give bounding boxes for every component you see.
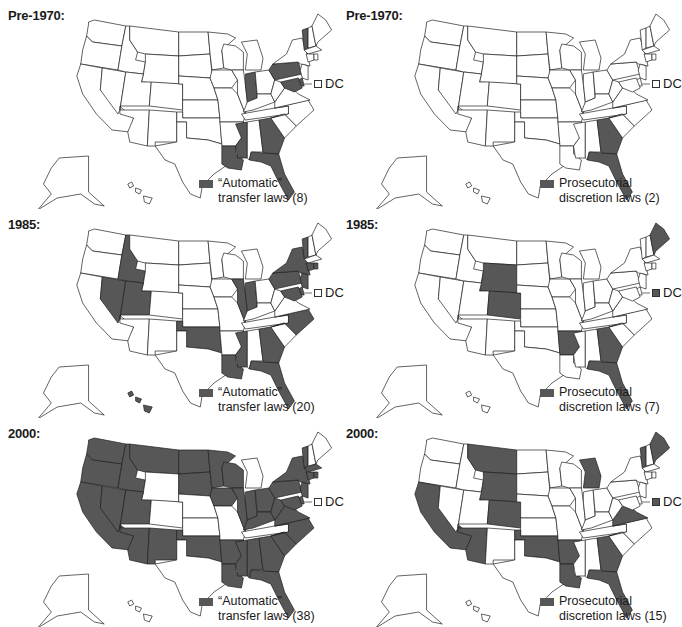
- state-co: [487, 500, 520, 528]
- state-sd: [517, 263, 550, 287]
- state-wi: [222, 462, 244, 488]
- map-panel-automatic-pre1970: Pre-1970:DC“Automatic”transfer laws (8): [0, 0, 336, 209]
- state-co: [487, 291, 520, 319]
- state-hi: [128, 182, 134, 188]
- dc-label: DC: [663, 285, 682, 300]
- state-nm: [147, 528, 176, 564]
- state-hi: [466, 391, 472, 397]
- state-ak: [38, 156, 105, 209]
- state-hi: [143, 196, 152, 204]
- state-hi: [474, 188, 480, 194]
- legend-label-line2: discretion laws (7): [541, 400, 660, 415]
- state-wi: [222, 253, 244, 279]
- dc-swatch: [314, 80, 322, 88]
- state-ak: [376, 365, 443, 418]
- legend-label-line2: transfer laws (38): [200, 609, 315, 624]
- state-sd: [179, 54, 212, 78]
- state-ri: [314, 263, 318, 269]
- legend-label-line1: Prosecutorial: [541, 594, 667, 609]
- state-wy: [141, 472, 178, 502]
- state-ks: [521, 100, 558, 118]
- state-nj: [638, 64, 646, 80]
- state-mt: [130, 444, 179, 474]
- state-me: [312, 223, 332, 255]
- map-panel-automatic-2000: 2000:DC“Automatic”transfer laws (38): [0, 418, 336, 627]
- state-mt: [468, 444, 517, 474]
- state-hi: [466, 600, 472, 606]
- state-mt: [468, 26, 517, 56]
- state-mt: [468, 235, 517, 265]
- state-wi: [560, 253, 582, 279]
- state-hi: [128, 600, 134, 606]
- state-nj: [300, 273, 308, 289]
- state-hi: [143, 405, 152, 413]
- state-co: [149, 500, 182, 528]
- legend: Prosecutorialdiscretion laws (15): [541, 594, 667, 624]
- state-hi: [481, 614, 490, 622]
- state-ak: [38, 365, 105, 418]
- state-me: [650, 432, 670, 464]
- legend-label-line1: “Automatic”: [200, 594, 315, 609]
- state-mi: [579, 40, 601, 70]
- legend: Prosecutorialdiscretion laws (7): [541, 385, 660, 415]
- state-ri: [652, 54, 656, 60]
- state-nj: [300, 482, 308, 498]
- dc-swatch: [314, 289, 322, 297]
- state-pa: [269, 271, 302, 289]
- legend-label-line1: “Automatic”: [200, 176, 308, 191]
- dc-indicator: DC: [652, 494, 682, 509]
- state-nd: [179, 241, 210, 265]
- state-pa: [269, 62, 302, 80]
- state-ks: [183, 518, 220, 536]
- state-nm: [147, 110, 176, 146]
- state-sd: [517, 54, 550, 78]
- map-panel-prosecutorial-1985: 1985:DCProsecutorialdiscretion laws (7): [336, 209, 672, 418]
- map-panel-automatic-1985: 1985:DC“Automatic”transfer laws (20): [0, 209, 336, 418]
- state-nd: [517, 241, 548, 265]
- state-hi: [481, 196, 490, 204]
- state-ks: [183, 309, 220, 327]
- state-nm: [485, 110, 514, 146]
- state-hi: [136, 188, 142, 194]
- dc-swatch: [652, 498, 660, 506]
- state-ri: [652, 472, 656, 478]
- state-hi: [481, 405, 490, 413]
- state-co: [149, 291, 182, 319]
- legend-swatch: [199, 389, 213, 397]
- state-nm: [485, 319, 514, 355]
- state-mt: [130, 26, 179, 56]
- state-hi: [128, 391, 134, 397]
- state-wi: [560, 44, 582, 70]
- state-nj: [638, 273, 646, 289]
- state-pa: [269, 480, 302, 498]
- state-nj: [638, 482, 646, 498]
- legend-swatch: [540, 598, 554, 606]
- state-co: [149, 82, 182, 110]
- state-hi: [466, 182, 472, 188]
- state-ak: [376, 156, 443, 209]
- legend-swatch: [199, 598, 213, 606]
- map-panel-prosecutorial-pre1970: Pre-1970:DCProsecutorialdiscretion laws …: [336, 0, 672, 209]
- state-wy: [479, 472, 516, 502]
- legend: “Automatic”transfer laws (20): [200, 385, 315, 415]
- state-nm: [147, 319, 176, 355]
- legend-swatch: [540, 389, 554, 397]
- state-sd: [179, 263, 212, 287]
- state-hi: [136, 606, 142, 612]
- dc-swatch: [652, 289, 660, 297]
- state-ks: [521, 518, 558, 536]
- state-me: [650, 14, 670, 46]
- state-wy: [141, 263, 178, 293]
- state-sd: [517, 472, 550, 496]
- state-pa: [607, 271, 640, 289]
- state-ks: [183, 100, 220, 118]
- dc-swatch: [652, 80, 660, 88]
- state-nd: [517, 32, 548, 56]
- legend-label-line2: transfer laws (8): [200, 191, 308, 206]
- map-panel-prosecutorial-2000: 2000:DCProsecutorialdiscretion laws (15): [336, 418, 672, 627]
- legend-label-line1: Prosecutorial: [541, 176, 660, 191]
- state-ak: [376, 574, 443, 627]
- legend: “Automatic”transfer laws (8): [200, 176, 308, 206]
- legend-label-line1: “Automatic”: [200, 385, 315, 400]
- dc-label: DC: [663, 494, 682, 509]
